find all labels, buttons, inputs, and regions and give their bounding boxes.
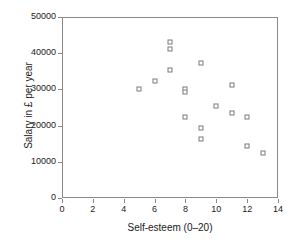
y-tick-label: 0 xyxy=(51,193,56,202)
data-point-marker xyxy=(245,114,250,119)
x-tick-mark xyxy=(124,199,125,203)
x-tick-label: 8 xyxy=(175,205,195,214)
data-point-marker xyxy=(183,89,188,94)
x-tick-label: 2 xyxy=(83,205,103,214)
x-tick-mark xyxy=(93,199,94,203)
x-tick-mark xyxy=(278,199,279,203)
data-point-marker xyxy=(198,126,203,131)
data-point-marker xyxy=(152,79,157,84)
data-point-marker xyxy=(168,39,173,44)
x-tick-label: 12 xyxy=(237,205,257,214)
data-point-marker xyxy=(168,68,173,73)
plot-area xyxy=(62,17,278,198)
y-axis-title: Salary in £ per year xyxy=(23,15,34,196)
y-tick-label: 40000 xyxy=(31,48,56,57)
x-tick-mark xyxy=(247,199,248,203)
x-tick-mark xyxy=(155,199,156,203)
scatter-plot-figure: 01000020000300004000050000 02468101214 S… xyxy=(0,0,295,245)
data-point-marker xyxy=(260,151,265,156)
data-point-marker xyxy=(245,144,250,149)
x-tick-label: 10 xyxy=(206,205,226,214)
data-point-marker xyxy=(214,104,219,109)
x-tick-label: 6 xyxy=(145,205,165,214)
data-point-marker xyxy=(168,46,173,51)
x-tick-label: 14 xyxy=(268,205,288,214)
data-point-marker xyxy=(183,115,188,120)
x-tick-mark xyxy=(62,199,63,203)
y-tick-label: 30000 xyxy=(31,84,56,93)
data-point-marker xyxy=(137,86,142,91)
y-tick-label: 20000 xyxy=(31,121,56,130)
data-point-marker xyxy=(198,60,203,65)
data-point-marker xyxy=(229,82,234,87)
data-point-marker xyxy=(229,111,234,116)
y-tick-label: 50000 xyxy=(31,12,56,21)
data-point-marker xyxy=(198,136,203,141)
x-axis-title: Self-esteem (0–20) xyxy=(62,222,278,233)
x-tick-label: 0 xyxy=(52,205,72,214)
x-tick-mark xyxy=(185,199,186,203)
x-tick-mark xyxy=(216,199,217,203)
x-tick-label: 4 xyxy=(114,205,134,214)
y-tick-label: 10000 xyxy=(31,157,56,166)
